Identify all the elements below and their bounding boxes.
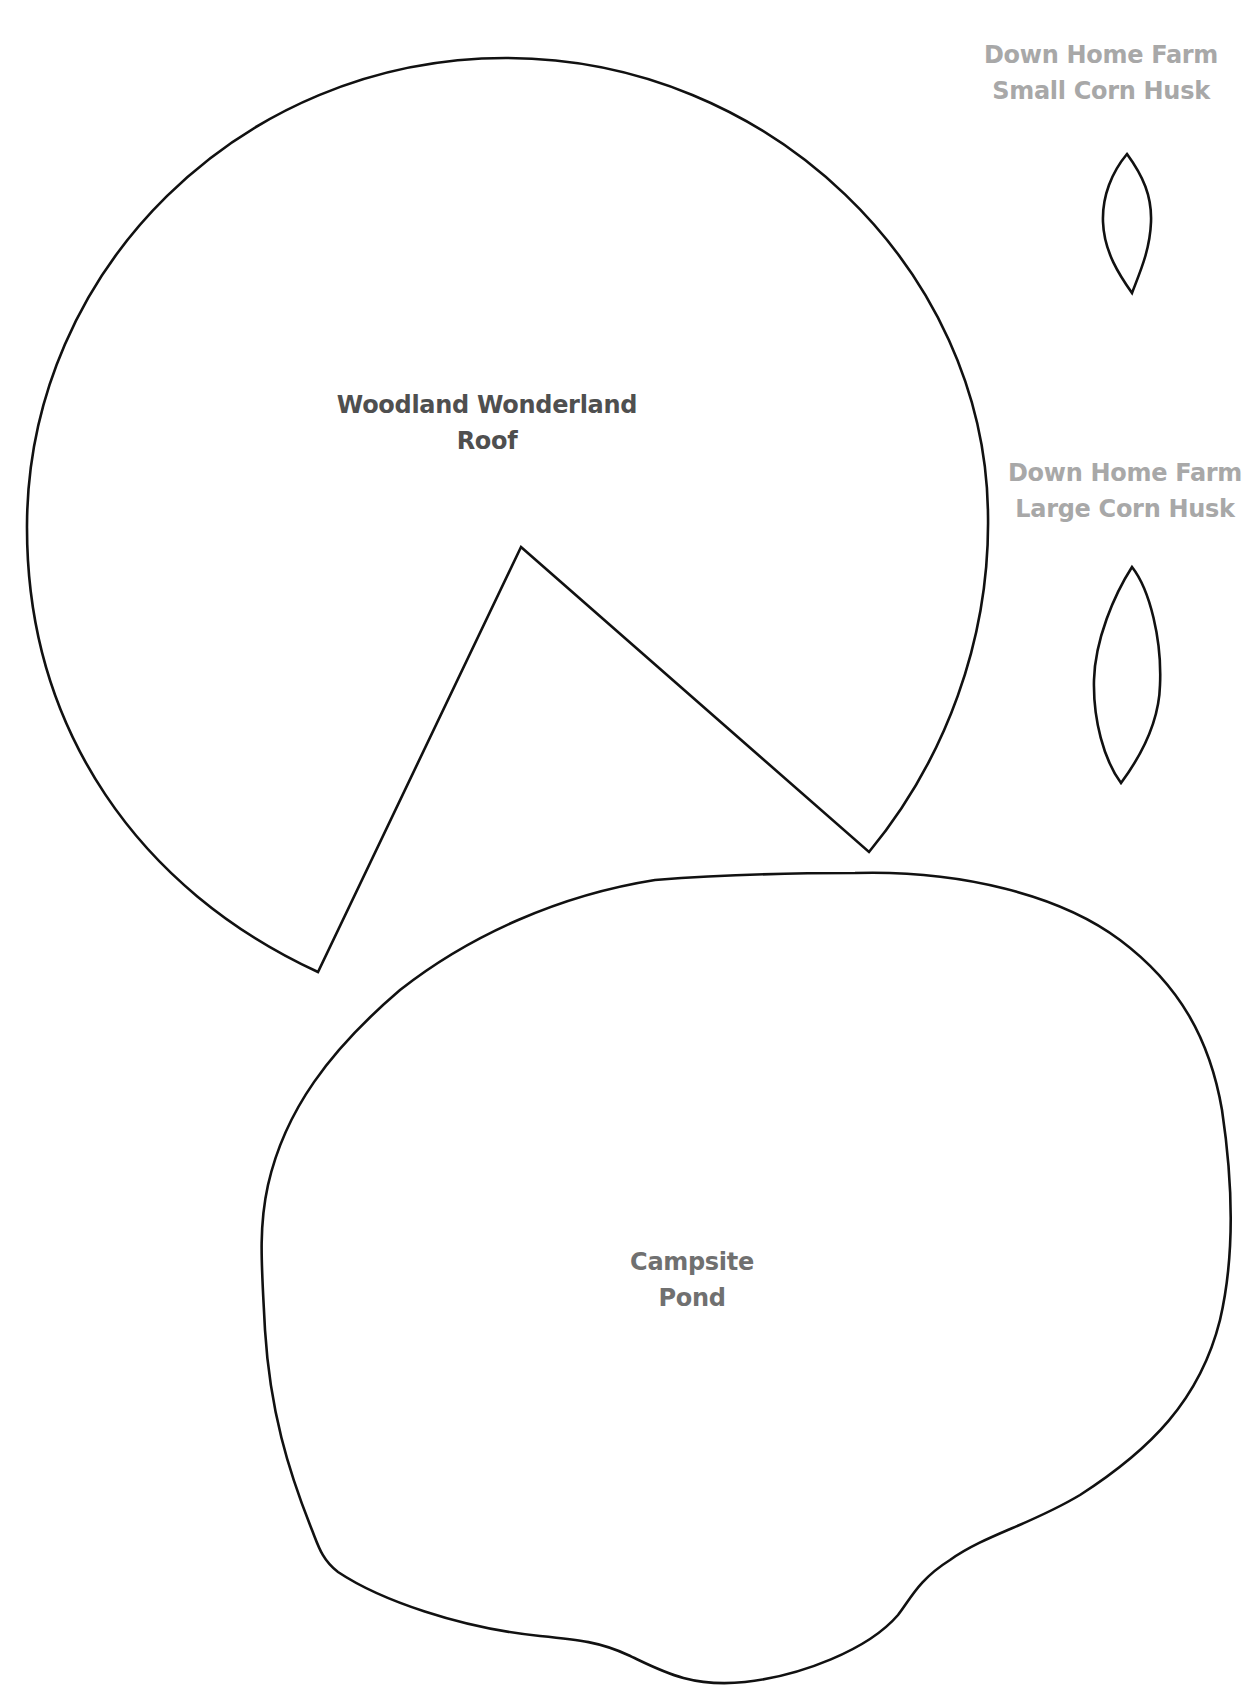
roof-label: Woodland Wonderland Roof bbox=[337, 387, 637, 459]
small-corn-husk-shape bbox=[1103, 154, 1151, 293]
roof-label-line1: Woodland Wonderland bbox=[337, 387, 637, 423]
large-husk-label: Down Home Farm Large Corn Husk bbox=[1008, 455, 1242, 527]
small-husk-label: Down Home Farm Small Corn Husk bbox=[984, 37, 1218, 109]
pond-label-line2: Pond bbox=[630, 1280, 754, 1316]
pond-label: Campsite Pond bbox=[630, 1244, 754, 1316]
pond-label-line1: Campsite bbox=[630, 1244, 754, 1280]
large-husk-label-line2: Large Corn Husk bbox=[1008, 491, 1242, 527]
template-page: Woodland Wonderland Roof Down Home Farm … bbox=[0, 0, 1260, 1701]
large-corn-husk-shape bbox=[1094, 567, 1160, 783]
cutout-shapes bbox=[0, 0, 1260, 1701]
large-husk-label-line1: Down Home Farm bbox=[1008, 455, 1242, 491]
small-husk-label-line1: Down Home Farm bbox=[984, 37, 1218, 73]
roof-label-line2: Roof bbox=[337, 423, 637, 459]
small-husk-label-line2: Small Corn Husk bbox=[984, 73, 1218, 109]
roof-cutout-shape bbox=[27, 58, 988, 972]
